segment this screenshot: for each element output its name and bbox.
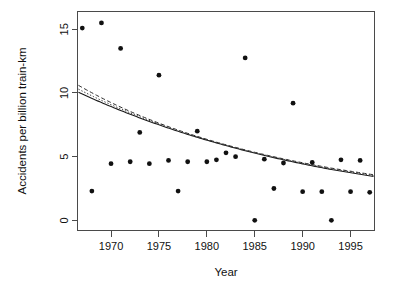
x-axis-title: Year bbox=[214, 266, 237, 278]
y-axis-title: Accidents per billion train-km bbox=[16, 47, 28, 194]
data-point bbox=[252, 218, 257, 223]
accidents-per-train-km-scatter-chart: 051015 197019751980198519901995 Year Acc… bbox=[0, 0, 394, 292]
plot-box-border bbox=[78, 12, 375, 231]
y-tick-label: 5 bbox=[58, 154, 70, 160]
data-point bbox=[109, 161, 114, 166]
data-point bbox=[80, 26, 85, 31]
data-point bbox=[272, 186, 277, 191]
data-point bbox=[89, 189, 94, 194]
data-point bbox=[329, 218, 334, 223]
data-point bbox=[300, 189, 305, 194]
y-axis-ticks: 051015 bbox=[58, 23, 77, 223]
fitted-curve-dotted bbox=[78, 89, 373, 175]
x-tick-label: 1980 bbox=[195, 240, 219, 252]
y-tick-label: 15 bbox=[58, 23, 70, 35]
y-tick-label: 10 bbox=[58, 87, 70, 99]
data-point bbox=[118, 46, 123, 51]
data-point bbox=[137, 130, 142, 135]
data-point bbox=[243, 56, 248, 61]
data-point bbox=[348, 189, 353, 194]
data-point bbox=[128, 159, 133, 164]
data-point bbox=[214, 157, 219, 162]
x-tick-label: 1985 bbox=[242, 240, 266, 252]
data-point bbox=[262, 157, 267, 162]
data-point bbox=[224, 150, 229, 155]
data-point bbox=[233, 154, 238, 159]
data-point bbox=[204, 159, 209, 164]
data-point bbox=[176, 189, 181, 194]
fitted-curve-dashed bbox=[78, 85, 373, 174]
x-tick-label: 1990 bbox=[290, 240, 314, 252]
y-tick-label: 0 bbox=[58, 217, 70, 223]
data-points bbox=[80, 21, 372, 223]
data-point bbox=[358, 158, 363, 163]
data-point bbox=[99, 21, 104, 26]
chart-svg: 051015 197019751980198519901995 Year Acc… bbox=[0, 0, 394, 292]
data-point bbox=[147, 161, 152, 166]
x-tick-label: 1995 bbox=[338, 240, 362, 252]
data-point bbox=[291, 101, 296, 106]
data-point bbox=[281, 161, 286, 166]
data-point bbox=[157, 73, 162, 78]
data-point bbox=[339, 157, 344, 162]
data-point bbox=[166, 158, 171, 163]
data-point bbox=[185, 159, 190, 164]
data-point bbox=[310, 160, 315, 165]
fitted-curves bbox=[78, 85, 373, 176]
fitted-curve-solid bbox=[78, 92, 373, 176]
x-axis-ticks: 197019751980198519901995 bbox=[99, 231, 363, 252]
data-point bbox=[319, 189, 324, 194]
data-point bbox=[195, 129, 200, 134]
data-point bbox=[367, 190, 372, 195]
x-tick-label: 1975 bbox=[147, 240, 171, 252]
plot-frame bbox=[78, 12, 375, 231]
x-tick-label: 1970 bbox=[99, 240, 123, 252]
